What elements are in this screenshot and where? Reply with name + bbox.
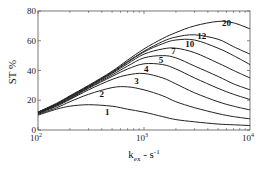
curve-label-2: 2 [100, 89, 105, 99]
curve-label-10: 10 [185, 39, 195, 49]
curve-label-5: 5 [159, 55, 164, 65]
curve-label-4: 4 [144, 64, 149, 74]
svg-text:kex - s-1: kex - s-1 [128, 148, 160, 163]
curve-2 [38, 87, 250, 119]
curve-label-3: 3 [134, 76, 139, 86]
curve-label-1: 1 [105, 107, 110, 117]
x-tick-label: 103 [136, 132, 148, 143]
y-tick-label: 40 [27, 66, 37, 76]
y-tick-label: 80 [27, 6, 37, 16]
y-tick-labels: 020406080 [27, 6, 37, 135]
curve-label-20: 20 [222, 18, 232, 28]
curve-label-12: 12 [197, 31, 207, 41]
x-axis-title: kex - s-1 [128, 148, 160, 163]
x-tick-labels: 102103104 [30, 132, 254, 143]
curve-1 [38, 105, 250, 126]
y-tick-label: 60 [27, 36, 37, 46]
y-tick-label: 20 [27, 95, 37, 105]
y-axis-title: ST % [6, 60, 18, 85]
curve-10 [38, 39, 250, 112]
x-tick-label: 102 [30, 132, 42, 143]
curve-3 [38, 73, 250, 113]
curve-label-7: 7 [171, 46, 176, 56]
x-tick-label: 104 [242, 132, 254, 143]
chart: 020406080 102103104 123457101220 ST % ke… [0, 0, 264, 169]
